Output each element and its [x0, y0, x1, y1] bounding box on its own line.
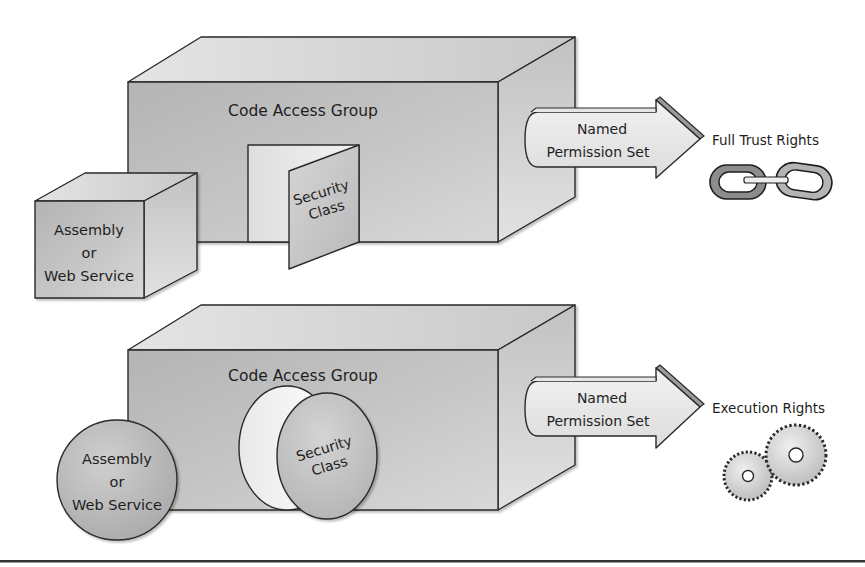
chain-link-icon: [710, 160, 834, 201]
assembly-label-line1: Assembly: [82, 451, 152, 467]
arrow-label-line1: Named: [577, 390, 627, 406]
arrow-top-bevel: [531, 108, 656, 112]
permission-set-arrow: Named Permission Set: [525, 365, 704, 448]
assembly-cube: Assembly or Web Service: [35, 173, 197, 298]
box-top-face: [128, 305, 575, 350]
disc-front: [277, 393, 377, 519]
top-scenario: Code Access Group Security Class Assembl…: [35, 37, 834, 298]
group-label: Code Access Group: [228, 102, 378, 120]
assembly-label-line2: or: [82, 245, 97, 261]
large-gear-icon: [766, 425, 826, 485]
group-label: Code Access Group: [228, 367, 378, 385]
security-class-disc: Security Class: [239, 386, 377, 519]
assembly-sphere: Assembly or Web Service: [57, 420, 177, 540]
arrow-label-line1: Named: [577, 121, 627, 137]
arrow-top-bevel: [531, 377, 656, 381]
gears-icon: [724, 425, 826, 500]
assembly-label-line3: Web Service: [72, 497, 162, 513]
rights-label: Full Trust Rights: [712, 132, 819, 148]
arrow-label-line2: Permission Set: [547, 144, 650, 160]
divider-line: [0, 560, 865, 563]
code-access-diagram: Code Access Group Security Class Assembl…: [0, 0, 865, 567]
permission-set-arrow: Named Permission Set: [525, 97, 704, 178]
assembly-label-line2: or: [110, 474, 125, 490]
assembly-label-line3: Web Service: [44, 268, 134, 284]
arrow-label-line2: Permission Set: [547, 413, 650, 429]
small-gear-icon: [724, 452, 772, 500]
bottom-scenario: Code Access Group Security Class Assembl…: [57, 305, 826, 540]
box-top-face: [128, 37, 575, 82]
rights-label: Execution Rights: [712, 400, 825, 416]
assembly-label-line1: Assembly: [54, 222, 124, 238]
security-class-door: Security Class: [248, 145, 359, 269]
